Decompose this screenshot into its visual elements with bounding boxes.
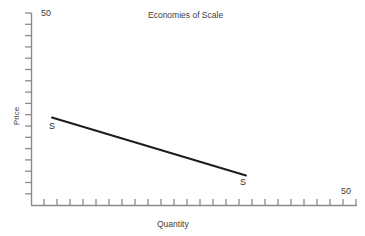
y-axis-max-tick-label: 50 <box>41 9 51 18</box>
y-axis-ticks <box>25 13 32 194</box>
y-axis-label: Price <box>13 96 21 136</box>
supply-curve-label-end: S <box>240 178 246 187</box>
chart-plot-area <box>0 0 365 236</box>
supply-curve-label-start: S <box>49 122 55 131</box>
chart-figure: Economies of Scale Price Quantity 50 50 … <box>0 0 365 236</box>
supply-curve-line <box>52 118 246 176</box>
x-axis-max-tick-label: 50 <box>341 187 351 196</box>
x-axis-label: Quantity <box>157 220 189 229</box>
chart-title: Economies of Scale <box>148 11 223 20</box>
x-axis-ticks <box>44 199 356 206</box>
